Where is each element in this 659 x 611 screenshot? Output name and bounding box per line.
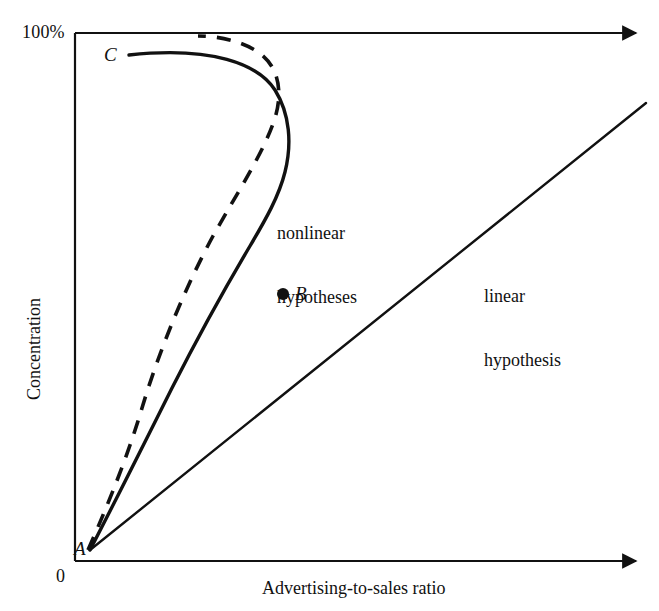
chart-figure: 100% 0 Advertising-to-sales ratio Concen… <box>0 0 659 611</box>
annotation-linear-hypothesis: linear hypothesis <box>484 244 561 414</box>
annotation-nonlinear-line-2: hypotheses <box>277 287 357 308</box>
series-nonlinear-dashed <box>88 36 279 550</box>
annotation-nonlinear-line-1: nonlinear <box>277 223 357 244</box>
annotation-nonlinear-hypotheses: nonlinear hypotheses <box>277 181 357 351</box>
point-label-a: A <box>74 538 86 560</box>
annotation-linear-line-1: linear <box>484 286 561 307</box>
y-axis-title: Concentration <box>24 298 45 400</box>
series-linear-hypothesis <box>90 103 646 550</box>
annotation-linear-line-2: hypothesis <box>484 350 561 371</box>
y-axis-top-tick-label: 100% <box>22 22 65 43</box>
point-label-c: C <box>104 44 117 66</box>
origin-tick-label: 0 <box>56 566 65 587</box>
x-axis-title: Advertising-to-sales ratio <box>262 578 445 599</box>
